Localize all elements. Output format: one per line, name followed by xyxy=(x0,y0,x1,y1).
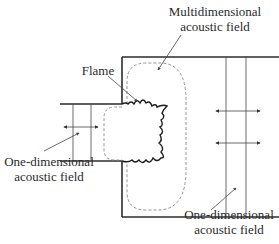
inlet-1d-leader-arrow-icon xyxy=(44,133,79,151)
chamber-1d-label-line2: acoustic field xyxy=(170,222,279,237)
diagram-canvas: Multidimensional acoustic field Flame On… xyxy=(0,0,279,244)
multidimensional-field-label: Multidimensional acoustic field xyxy=(150,4,279,34)
flame-front xyxy=(122,100,167,163)
multidimensional-label-line2: acoustic field xyxy=(150,19,279,34)
chamber-one-dimensional-field-label: One-dimensional acoustic field xyxy=(170,207,279,237)
inlet-1d-label-line2: acoustic field xyxy=(0,169,98,184)
inlet-one-dimensional-field-label: One-dimensional acoustic field xyxy=(0,154,98,184)
flame-base-dashed-region xyxy=(104,107,122,160)
chamber-1d-label-line1: One-dimensional xyxy=(170,207,279,222)
multidimensional-label-line1: Multidimensional xyxy=(150,4,279,19)
chamber-plane-wave-region xyxy=(216,57,260,217)
flame-label: Flame xyxy=(78,63,118,78)
inlet-plane-wave-region xyxy=(64,104,98,161)
inlet-1d-label-line1: One-dimensional xyxy=(0,154,98,169)
multidimensional-field-boundary xyxy=(127,63,186,210)
combustion-chamber xyxy=(122,57,279,217)
